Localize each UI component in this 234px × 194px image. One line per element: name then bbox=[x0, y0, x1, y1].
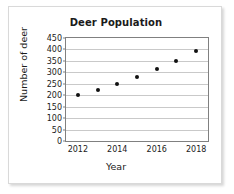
gridline bbox=[66, 61, 208, 62]
gridline bbox=[66, 72, 208, 73]
gridline bbox=[66, 95, 208, 96]
y-tick-mark bbox=[63, 72, 66, 73]
gridline bbox=[66, 118, 208, 119]
plot-area: 050100150200250300350400450 201220142016… bbox=[65, 37, 209, 142]
gridline bbox=[66, 130, 208, 131]
y-tick-mark bbox=[63, 129, 66, 130]
y-tick-label: 350 bbox=[47, 56, 62, 65]
gridline bbox=[66, 84, 208, 85]
data-point bbox=[174, 59, 178, 63]
y-tick-label: 200 bbox=[47, 91, 62, 100]
x-tick-label: 2014 bbox=[107, 145, 127, 154]
data-point bbox=[115, 82, 119, 86]
x-tick-label: 2012 bbox=[68, 145, 88, 154]
y-tick-mark bbox=[63, 95, 66, 96]
y-tick-mark bbox=[63, 38, 66, 39]
gridline bbox=[66, 49, 208, 50]
y-tick-label: 0 bbox=[57, 137, 62, 146]
y-tick-label: 50 bbox=[52, 125, 62, 134]
data-point bbox=[135, 75, 139, 79]
figure-card: Deer Population Number of deer 050100150… bbox=[8, 6, 222, 184]
y-tick-mark bbox=[63, 49, 66, 50]
gridline bbox=[66, 107, 208, 108]
y-tick-label: 400 bbox=[47, 45, 62, 54]
y-tick-label: 300 bbox=[47, 68, 62, 77]
y-tick-label: 250 bbox=[47, 79, 62, 88]
y-axis-title: Number of deer bbox=[18, 15, 29, 115]
data-point bbox=[155, 67, 159, 71]
data-point bbox=[194, 49, 198, 53]
y-tick-mark bbox=[63, 118, 66, 119]
y-tick-mark bbox=[63, 106, 66, 107]
y-tick-label: 450 bbox=[47, 34, 62, 43]
x-tick-label: 2016 bbox=[147, 145, 167, 154]
x-axis-title: Year bbox=[9, 161, 223, 172]
data-point bbox=[76, 93, 80, 97]
x-tick-label: 2018 bbox=[186, 145, 206, 154]
chart-title: Deer Population bbox=[9, 17, 223, 28]
data-point bbox=[96, 88, 100, 92]
y-tick-mark bbox=[63, 60, 66, 61]
y-tick-mark bbox=[63, 83, 66, 84]
y-tick-label: 150 bbox=[47, 102, 62, 111]
y-tick-label: 100 bbox=[47, 114, 62, 123]
y-tick-mark bbox=[63, 141, 66, 142]
